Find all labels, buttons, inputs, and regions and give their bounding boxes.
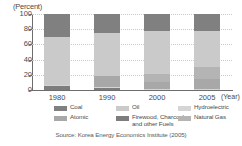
bar-segment bbox=[44, 14, 70, 37]
bar-segment bbox=[94, 33, 120, 76]
x-tick-label: 1980 bbox=[37, 93, 77, 102]
stacked-bar-chart: (Percent) 020406080100 1980199020002005(… bbox=[0, 0, 242, 146]
bar-segment bbox=[194, 89, 220, 90]
y-axis-ticks: 020406080100 bbox=[0, 0, 32, 146]
bar-segment bbox=[94, 14, 120, 33]
bar-segment bbox=[144, 14, 170, 31]
bar-segment bbox=[44, 37, 70, 85]
legend-item: Oil bbox=[116, 104, 139, 111]
legend-swatch bbox=[178, 116, 191, 121]
legend-item: Natural Gas bbox=[178, 114, 226, 121]
legend-label: Natural Gas bbox=[194, 114, 226, 121]
legend-label: Hydroelectric bbox=[194, 104, 229, 111]
bar-segment bbox=[144, 89, 170, 90]
bar-stack bbox=[194, 14, 220, 90]
bar-stack bbox=[44, 14, 70, 90]
bar-segment bbox=[44, 85, 70, 90]
bar-stack bbox=[94, 14, 120, 90]
legend-swatch bbox=[178, 106, 191, 111]
bar-segment bbox=[94, 88, 120, 90]
legend-swatch bbox=[116, 116, 129, 121]
legend-swatch bbox=[54, 116, 67, 121]
bar-segment bbox=[94, 76, 120, 87]
bar-segment bbox=[144, 82, 170, 89]
bar-segment bbox=[194, 67, 220, 78]
bar-segment bbox=[194, 14, 220, 31]
bar-segment bbox=[144, 31, 170, 74]
x-tick-label: 1990 bbox=[87, 93, 127, 102]
x-axis-line bbox=[32, 90, 233, 91]
legend-swatch bbox=[116, 106, 129, 111]
legend-label: Atomic bbox=[70, 114, 88, 121]
bar-segment bbox=[144, 74, 170, 82]
bar-segment bbox=[194, 79, 220, 90]
legend-label: Coal bbox=[70, 104, 82, 111]
legend-label: Oil bbox=[132, 104, 139, 111]
bar-segment bbox=[44, 85, 70, 86]
chart-legend: CoalOilHydroelectricAtomicFirewood, Char… bbox=[54, 104, 234, 124]
legend-label: Firewood, Charcoaland other Fuels bbox=[132, 114, 184, 127]
source-note: Source: Korea Energy Economics Institute… bbox=[0, 131, 242, 138]
bar-segment bbox=[94, 87, 120, 88]
bar-segment bbox=[194, 31, 220, 67]
legend-item: Firewood, Charcoaland other Fuels bbox=[116, 114, 184, 127]
plot-area bbox=[32, 14, 232, 90]
legend-item: Hydroelectric bbox=[178, 104, 229, 111]
x-tick-label: 2000 bbox=[137, 93, 177, 102]
x-axis-unit-label: (Year) bbox=[221, 93, 240, 100]
bar-stack bbox=[144, 14, 170, 90]
legend-item: Coal bbox=[54, 104, 82, 111]
legend-item: Atomic bbox=[54, 114, 88, 121]
legend-swatch bbox=[54, 106, 67, 111]
